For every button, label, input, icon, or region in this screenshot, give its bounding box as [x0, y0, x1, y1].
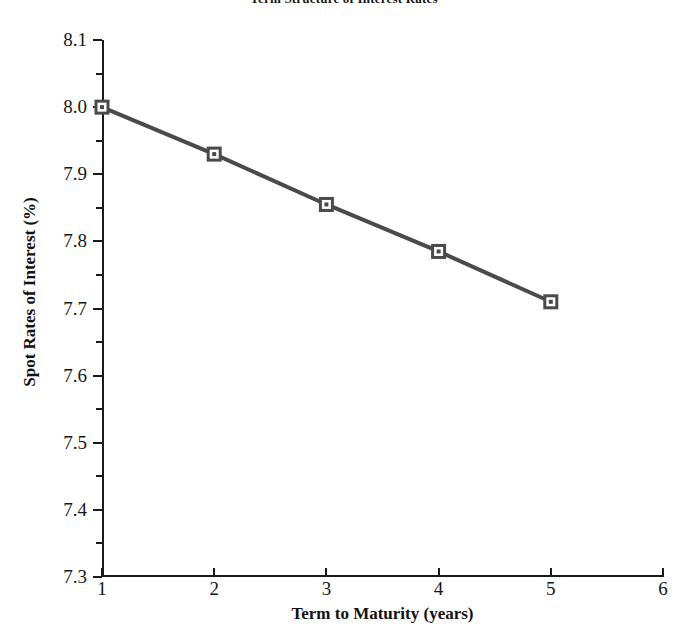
x-tick-label: 5: [546, 578, 556, 600]
x-tick-label: 1: [97, 578, 107, 600]
y-tick-label: 7.3: [63, 566, 87, 588]
y-tick-label: 7.9: [63, 163, 87, 185]
y-tick: 7.6: [93, 375, 102, 377]
x-tick-label: 6: [658, 578, 668, 600]
data-point-center: [437, 249, 441, 253]
y-axis-title: Spot Rates of Interest (%): [20, 142, 40, 442]
y-tick-label: 7.6: [63, 365, 87, 387]
data-series-svg: [102, 40, 663, 577]
x-tick-label: 2: [209, 578, 219, 600]
data-point-center: [549, 300, 553, 304]
y-tick: 7.9: [93, 173, 102, 175]
y-tick-label: 7.4: [63, 499, 87, 521]
y-tick: 8.1: [93, 39, 102, 41]
chart-page: Term Structure of Interest Rates 8.18.07…: [0, 0, 688, 640]
data-point-center: [324, 202, 328, 206]
y-tick: 7.7: [93, 308, 102, 310]
y-tick-label: 7.8: [63, 230, 87, 252]
y-tick-label: 7.7: [63, 298, 87, 320]
chart-title: Term Structure of Interest Rates: [0, 0, 688, 7]
plot-area: 8.18.07.97.87.77.67.57.47.3 123456: [102, 40, 663, 577]
y-tick: 7.8: [93, 240, 102, 242]
data-point-center: [100, 105, 104, 109]
y-tick-label: 8.1: [63, 29, 87, 51]
data-point-center: [212, 152, 216, 156]
y-tick-label: 7.5: [63, 432, 87, 454]
x-axis-title: Term to Maturity (years): [102, 604, 663, 624]
x-tick-label: 3: [322, 578, 332, 600]
y-tick: 7.4: [93, 509, 102, 511]
x-tick-label: 4: [434, 578, 444, 600]
y-tick-label: 8.0: [63, 96, 87, 118]
y-tick: 7.5: [93, 442, 102, 444]
